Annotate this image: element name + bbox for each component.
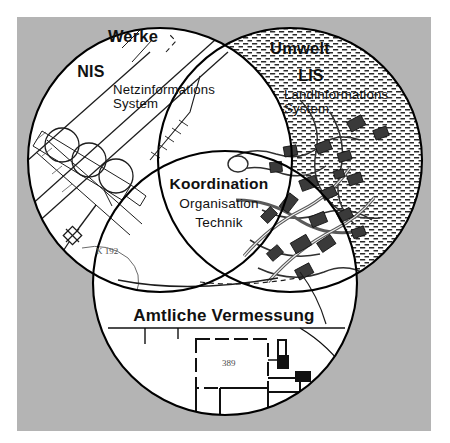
label-nis-abbrev: NIS [77,63,104,80]
map-label-road-k192: K 192 [96,246,118,256]
label-nis-line2: System [113,97,215,111]
label-werke: Werke [108,28,158,46]
map-label-parcel-number: 389 [222,358,236,368]
label-nis-line1: Netzinformations [113,83,215,97]
label-lis-abbrev: LIS [298,67,324,84]
label-umwelt: Umwelt [270,40,330,58]
label-technik: Technik [195,216,243,231]
label-organisation: Organisation [179,197,258,212]
label-lis-subtitle: Landinformations System [284,88,388,117]
figure-canvas: Werke NIS Netzinformations System Umwelt… [0,0,450,443]
label-lis-line1: Landinformations [284,88,388,102]
label-amtliche-vermessung: Amtliche Vermessung [133,307,314,325]
label-koordination: Koordination [170,176,269,193]
label-nis-subtitle: Netzinformations System [113,83,215,112]
label-lis-line2: System [284,102,388,116]
